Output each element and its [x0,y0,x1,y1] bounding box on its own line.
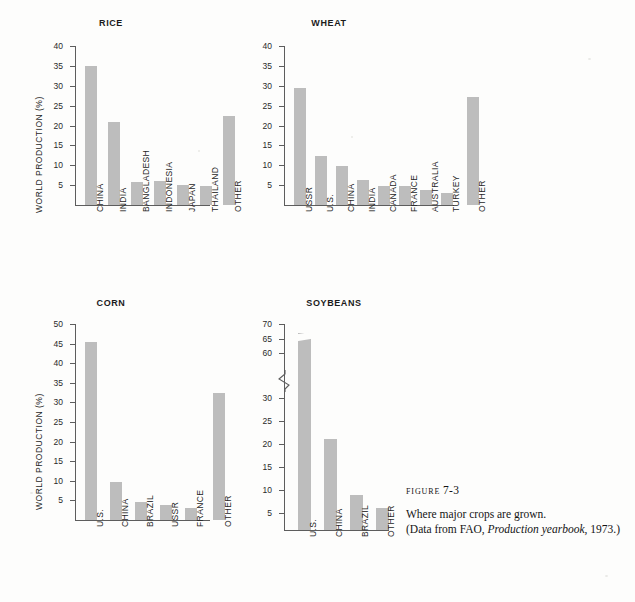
caption-line-1: Where major crops are grown. [406,507,631,522]
y-tick-soybeans: 15 [279,467,284,468]
caption-line-2: (Data from FAO, Production yearbook, 197… [406,522,631,537]
x-category-label-wheat: AUSTRALIA [431,161,440,212]
y-tick-wheat: 25 [279,106,284,107]
y-tick-label-wheat: 30 [263,82,272,91]
y-tick-label-rice: 10 [54,161,63,170]
y-tick-label-wheat: 35 [263,62,272,71]
y-tick-rice: 25 [70,106,75,107]
caption-source-suffix: , 1973.) [585,523,620,535]
y-tick-wheat: 35 [279,66,284,67]
y-axis-wheat [284,46,285,206]
chart-title-rice: RICE [46,18,176,28]
y-tick-wheat: 30 [279,86,284,87]
x-category-label-rice: OTHER [234,180,243,212]
y-tick-soybeans: 25 [279,421,284,422]
bar-corn [85,342,97,520]
y-tick-soybeans: 70 [279,324,284,325]
scan-speckle [588,58,591,60]
x-category-label-corn: OTHER [224,495,233,527]
y-tick-rice: 10 [70,165,75,166]
y-tick-label-corn: 5 [58,496,63,505]
y-tick-corn: 40 [70,363,75,364]
figure-page: RICE WORLD PRODUCTION (%) 40 35 30 25 20… [0,0,635,602]
y-tick-soybeans: 30 [279,398,284,399]
chart-title-wheat: WHEAT [264,18,394,28]
panel-rice: RICE WORLD PRODUCTION (%) 40 35 30 25 20… [28,18,228,298]
x-category-label-wheat: INDIA [368,187,377,212]
y-tick-corn: 5 [70,500,75,501]
y-tick-label-rice: 40 [54,42,63,51]
y-tick-label-corn: 45 [54,339,63,348]
x-category-label-soybeans: U.S. [309,519,318,537]
y-tick-rice: 20 [70,126,75,127]
x-category-label-wheat: USSR [305,187,314,212]
y-tick-label-wheat: 25 [263,101,272,110]
x-category-label-corn: BRAZIL [146,495,155,527]
x-category-label-wheat: CANADA [389,174,398,212]
x-category-label-wheat: FRANCE [410,175,419,212]
plot-area-wheat: 40 35 30 25 20 15 10 5 [284,46,444,205]
y-tick-wheat: 20 [279,126,284,127]
y-tick-label-corn: 10 [54,477,63,486]
y-tick-label-soybeans: 30 [263,393,272,402]
x-category-label-rice: JAPAN [188,183,197,212]
y-tick-label-wheat: 15 [263,141,272,150]
y-tick-label-soybeans: 10 [263,485,272,494]
y-tick-label-rice: 25 [54,101,63,110]
figure-number-line: FIGURE 7-3 [406,484,631,496]
chart-title-corn: CORN [46,298,176,308]
y-tick-corn: 25 [70,422,75,423]
y-tick-label-wheat: 10 [263,161,272,170]
y-tick-corn: 50 [70,324,75,325]
y-tick-wheat: 15 [279,145,284,146]
y-tick-wheat: 5 [279,185,284,186]
panel-wheat: WHEAT 40 35 30 25 20 15 10 [248,18,468,298]
y-tick-label-soybeans: 65 [263,334,272,343]
x-category-label-rice: THAILAND [211,167,220,212]
y-tick-corn: 15 [70,461,75,462]
y-tick-label-corn: 15 [54,457,63,466]
y-axis-label-corn: WORLD PRODUCTION (%) [34,393,44,510]
y-tick-wheat: 40 [279,46,284,47]
caption-source-title: Production yearbook [488,523,585,535]
y-tick-rice: 15 [70,145,75,146]
scan-speckle [605,575,608,577]
y-tick-rice: 40 [70,46,75,47]
y-tick-label-soybeans: 20 [263,439,272,448]
y-tick-label-rice: 35 [54,62,63,71]
x-category-label-wheat: U.S. [326,194,335,212]
y-tick-soybeans: 60 [279,353,284,354]
x-category-label-wheat: OTHER [478,180,487,212]
y-tick-rice: 30 [70,86,75,87]
y-tick-soybeans: 5 [279,513,284,514]
y-tick-label-wheat: 40 [263,42,272,51]
figure-caption: FIGURE 7-3 Where major crops are grown. … [406,484,631,537]
y-tick-soybeans: 10 [279,490,284,491]
y-tick-label-corn: 40 [54,359,63,368]
panel-corn: CORN WORLD PRODUCTION (%) 50 45 40 35 30… [28,298,228,588]
y-tick-label-soybeans: 25 [263,416,272,425]
y-tick-corn: 30 [70,402,75,403]
y-tick-label-rice: 30 [54,82,63,91]
panel-soybeans: SOYBEANS 70 65 60 30 [248,298,448,588]
plot-area-rice: 40 35 30 25 20 15 10 5 [75,46,205,205]
y-tick-corn: 45 [70,344,75,345]
y-tick-corn: 10 [70,481,75,482]
x-category-label-wheat: CHINA [347,184,356,212]
x-category-label-corn: USSR [171,502,180,527]
y-tick-corn: 35 [70,383,75,384]
y-tick-soybeans: 20 [279,444,284,445]
y-tick-label-corn: 20 [54,437,63,446]
y-axis-rice [75,46,76,206]
y-tick-label-rice: 20 [54,121,63,130]
x-category-label-corn: FRANCE [196,490,205,527]
y-tick-rice: 35 [70,66,75,67]
y-tick-soybeans: 65 [279,339,284,340]
chart-title-soybeans: SOYBEANS [264,298,404,308]
y-tick-corn: 20 [70,442,75,443]
y-tick-rice: 5 [70,185,75,186]
y-tick-label-corn: 30 [54,398,63,407]
y-axis-corn [75,324,76,521]
x-category-label-wheat: TURKEY [452,175,461,212]
caption-source-prefix: (Data from FAO, [406,523,488,535]
